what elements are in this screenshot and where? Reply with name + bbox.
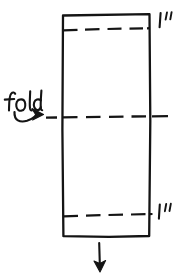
top-margin-line xyxy=(64,28,151,30)
direction-arrow xyxy=(94,243,106,272)
sketch-canvas: 1" 1" fold xyxy=(0,0,178,276)
bottom-margin-line xyxy=(64,214,153,216)
paper-strip-outline xyxy=(62,14,150,237)
diagram-vector-layer xyxy=(0,0,178,276)
